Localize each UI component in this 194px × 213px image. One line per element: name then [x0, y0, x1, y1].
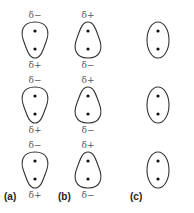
nucleus-bottom	[33, 112, 36, 115]
charge-label-bottom: δ+	[29, 125, 42, 135]
nucleus-bottom	[156, 47, 159, 50]
molecule: δ+δ−	[75, 140, 101, 200]
dipole-diagram: δ−δ+δ−δ+δ−δ+δ+δ−δ+δ−δ+δ− (a) (b) (c)	[0, 0, 194, 213]
charge-label-bottom: δ−	[82, 125, 95, 135]
panel-label-c: (c)	[130, 191, 142, 202]
nucleus-bottom	[33, 47, 36, 50]
nucleus-top	[33, 94, 36, 97]
nucleus-top	[86, 94, 89, 97]
panel-label-a: (a)	[4, 191, 16, 202]
nucleus-bottom	[86, 112, 89, 115]
charge-label-top: δ−	[29, 75, 42, 85]
nucleus-top	[156, 29, 159, 32]
electron-cloud-outline	[22, 152, 48, 188]
nucleus-top	[86, 29, 89, 32]
electron-cloud-outline	[147, 87, 169, 123]
molecule: δ−δ+	[22, 10, 48, 70]
nucleus-top	[33, 159, 36, 162]
charge-label-top: δ−	[29, 10, 42, 20]
electron-cloud-outline	[147, 22, 169, 58]
electron-cloud-outline	[75, 22, 101, 58]
electron-cloud-outline	[22, 87, 48, 123]
charge-label-bottom: δ+	[29, 190, 42, 200]
nucleus-bottom	[33, 177, 36, 180]
charge-label-bottom: δ−	[82, 190, 95, 200]
molecule	[147, 22, 169, 58]
electron-cloud-outline	[22, 22, 48, 58]
nucleus-top	[156, 159, 159, 162]
nucleus-bottom	[156, 112, 159, 115]
panel-label-b: (b)	[58, 191, 71, 202]
nucleus-bottom	[86, 47, 89, 50]
molecule	[147, 87, 169, 123]
molecule: δ−δ+	[22, 140, 48, 200]
charge-label-top: δ+	[82, 75, 95, 85]
molecule: δ−δ+	[22, 75, 48, 135]
charge-label-top: δ+	[82, 140, 95, 150]
molecule: δ+δ−	[75, 10, 101, 70]
nucleus-top	[86, 159, 89, 162]
nucleus-bottom	[86, 177, 89, 180]
nucleus-top	[156, 94, 159, 97]
molecule	[147, 152, 169, 188]
nucleus-top	[33, 29, 36, 32]
charge-label-top: δ−	[29, 140, 42, 150]
electron-cloud-outline	[147, 152, 169, 188]
nucleus-bottom	[156, 177, 159, 180]
charge-label-top: δ+	[82, 10, 95, 20]
molecule: δ+δ−	[75, 75, 101, 135]
electron-cloud-outline	[75, 152, 101, 188]
electron-cloud-outline	[75, 87, 101, 123]
charge-label-bottom: δ+	[29, 60, 42, 70]
charge-label-bottom: δ−	[82, 60, 95, 70]
